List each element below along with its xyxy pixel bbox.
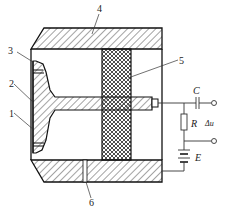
label-resistor: R	[190, 118, 197, 129]
label-1: 1	[9, 108, 14, 119]
electrode	[33, 61, 158, 153]
label-5: 5	[179, 55, 184, 66]
vent-hole	[83, 160, 87, 182]
housing-top	[31, 28, 162, 49]
circuit	[158, 97, 217, 171]
label-6: 6	[89, 197, 94, 208]
label-2: 2	[9, 78, 14, 89]
label-4: 4	[97, 3, 102, 14]
label-capacitor: C	[193, 85, 200, 96]
label-battery: E	[194, 152, 201, 163]
housing-bottom	[31, 160, 162, 182]
label-output: Δu	[204, 119, 214, 128]
sensor-diagram: 3 2 1 4 5 6 C R Δu E	[0, 0, 225, 210]
label-3: 3	[8, 45, 13, 56]
